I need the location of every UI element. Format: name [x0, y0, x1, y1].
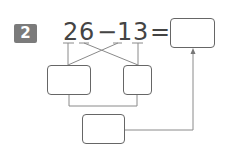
split-box-right[interactable]: [123, 65, 152, 95]
answer-box[interactable]: [170, 18, 215, 48]
sum-box[interactable]: [82, 114, 125, 144]
split-box-left[interactable]: [47, 65, 91, 95]
